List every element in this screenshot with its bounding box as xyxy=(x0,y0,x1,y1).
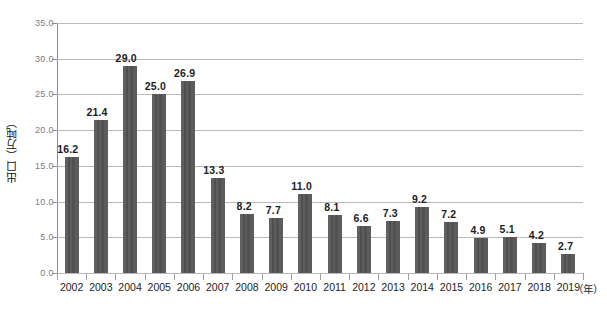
bar[interactable] xyxy=(561,254,575,273)
x-axis-tickmark xyxy=(232,274,233,280)
bar-value-label: 21.4 xyxy=(86,106,107,118)
x-axis-unit-label: （年） xyxy=(573,281,603,296)
bar-value-label: 16.2 xyxy=(57,143,78,155)
bar-slot xyxy=(554,23,583,273)
bar-value-label: 7.2 xyxy=(441,208,456,220)
bar[interactable] xyxy=(269,218,283,273)
bar-slot xyxy=(86,23,115,273)
x-axis-tickmark xyxy=(349,274,350,280)
bar[interactable] xyxy=(181,81,195,273)
bar[interactable] xyxy=(298,194,312,273)
bar-slot xyxy=(408,23,437,273)
y-axis-tickmark xyxy=(52,59,57,60)
x-axis-tickmark xyxy=(466,274,467,280)
y-axis-tick-label: 0.0 xyxy=(24,268,54,278)
bar-slot xyxy=(174,23,203,273)
x-axis-tickmark xyxy=(262,274,263,280)
bar-value-label: 4.9 xyxy=(470,224,485,236)
bar[interactable] xyxy=(415,207,429,273)
y-axis-tick-label: 30.0 xyxy=(24,54,54,64)
bar-value-label: 11.0 xyxy=(291,180,312,192)
x-axis-tick-label: 2006 xyxy=(174,281,203,293)
x-axis-tickmark xyxy=(115,274,116,280)
bar-value-label: 13.3 xyxy=(203,164,224,176)
y-axis-tickmark xyxy=(52,202,57,203)
y-axis-tick-label: 10.0 xyxy=(24,197,54,207)
y-axis-tickmark xyxy=(52,23,57,24)
x-axis-tickmark xyxy=(174,274,175,280)
bar-slot xyxy=(232,23,261,273)
x-axis-tick-label: 2007 xyxy=(203,281,232,293)
bar-value-label: 8.1 xyxy=(324,201,339,213)
x-axis-tick-label: 2018 xyxy=(525,281,554,293)
bar[interactable] xyxy=(328,215,342,273)
bar-slot xyxy=(437,23,466,273)
y-axis-tick-label: 5.0 xyxy=(24,232,54,242)
bar-value-label: 9.2 xyxy=(412,193,427,205)
x-axis-tick-label: 2016 xyxy=(466,281,495,293)
x-axis-tick-label: 2017 xyxy=(495,281,524,293)
y-axis-tick-labels: 0.05.010.015.020.025.030.035.0 xyxy=(22,0,54,311)
bar-slot xyxy=(203,23,232,273)
bar-series: 16.221.429.025.026.913.38.27.711.08.16.6… xyxy=(57,23,583,273)
bar-value-label: 7.3 xyxy=(383,207,398,219)
x-axis-tick-labels: 2002200320042005200620072008200920102011… xyxy=(57,281,583,299)
x-axis-tick-label: 2009 xyxy=(262,281,291,293)
x-axis-tick-label: 2005 xyxy=(145,281,174,293)
y-axis-tick-label: 20.0 xyxy=(24,125,54,135)
bar-value-label: 5.1 xyxy=(500,223,515,235)
x-axis-tickmark xyxy=(495,274,496,280)
x-axis-tickmark xyxy=(57,274,58,280)
y-axis-tickmark xyxy=(52,130,57,131)
bar-value-label: 2.7 xyxy=(558,240,573,252)
y-axis-title-text: 出口（万吨） xyxy=(5,117,21,183)
x-axis-tick-label: 2011 xyxy=(320,281,349,293)
x-axis-tick-label: 2003 xyxy=(86,281,115,293)
x-axis-tick-label: 2013 xyxy=(378,281,407,293)
x-axis-tick-label: 2012 xyxy=(349,281,378,293)
bar[interactable] xyxy=(211,178,225,273)
x-axis-tickmark xyxy=(291,274,292,280)
y-axis-tickmark xyxy=(52,94,57,95)
x-axis-tick-label: 2004 xyxy=(115,281,144,293)
y-axis-title: 出口（万吨） xyxy=(2,85,24,215)
bar[interactable] xyxy=(444,222,458,273)
y-axis-tick-label: 35.0 xyxy=(24,18,54,28)
bar-value-label: 8.2 xyxy=(237,200,252,212)
x-axis-tickmark xyxy=(408,274,409,280)
x-axis-tick-label: 2015 xyxy=(437,281,466,293)
x-axis-tick-label: 2008 xyxy=(232,281,261,293)
bar[interactable] xyxy=(123,66,137,273)
bar-value-label: 7.7 xyxy=(266,204,281,216)
bar-slot xyxy=(349,23,378,273)
bar[interactable] xyxy=(65,157,79,273)
x-axis-tickmark xyxy=(583,274,584,280)
x-axis-tick-label: 2002 xyxy=(57,281,86,293)
bar-value-label: 25.0 xyxy=(145,80,166,92)
x-axis-tickmark xyxy=(320,274,321,280)
x-axis-tickmark xyxy=(525,274,526,280)
x-axis-tick-label: 2014 xyxy=(408,281,437,293)
bar-slot xyxy=(262,23,291,273)
bar[interactable] xyxy=(503,237,517,273)
bar[interactable] xyxy=(152,94,166,273)
x-axis-tickmark xyxy=(145,274,146,280)
x-axis-tickmark xyxy=(86,274,87,280)
bar[interactable] xyxy=(474,238,488,273)
y-axis-tick-label: 15.0 xyxy=(24,161,54,171)
bar[interactable] xyxy=(240,214,254,273)
bar[interactable] xyxy=(532,243,546,273)
bar-slot xyxy=(378,23,407,273)
bar[interactable] xyxy=(386,221,400,273)
y-axis-tickmark xyxy=(52,166,57,167)
bar-value-label: 6.6 xyxy=(353,212,368,224)
bar-value-label: 29.0 xyxy=(116,52,137,64)
x-axis-tick-label: 2010 xyxy=(291,281,320,293)
bar-slot xyxy=(145,23,174,273)
bar[interactable] xyxy=(94,120,108,273)
y-axis-tickmark xyxy=(52,237,57,238)
bar-chart: 出口（万吨） 0.05.010.015.020.025.030.035.0 16… xyxy=(0,0,607,311)
x-axis-tickmark xyxy=(437,274,438,280)
bar[interactable] xyxy=(357,226,371,273)
x-axis-tickmark xyxy=(203,274,204,280)
